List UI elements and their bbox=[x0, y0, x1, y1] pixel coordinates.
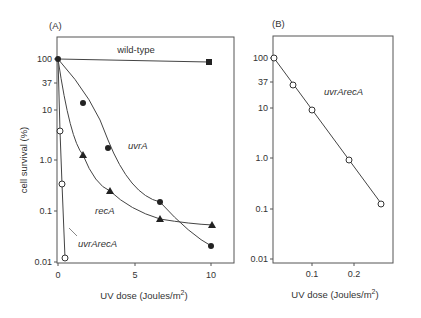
series-wild-type: wild-type bbox=[58, 44, 212, 65]
panel-a-x-axis: 0 5 10 UV dose (Joules/m2) bbox=[55, 263, 216, 301]
panel-b-label: (B) bbox=[272, 18, 285, 29]
series-label: uvrA bbox=[128, 140, 148, 151]
series-label: uvrArecA bbox=[324, 86, 363, 97]
y-tick: 10 bbox=[258, 103, 268, 113]
panel-b-frame bbox=[273, 36, 393, 263]
survival-figure: (A) 100 37 10 1.0 0.1 0.01 cell survival… bbox=[0, 0, 421, 318]
y-tick: 37 bbox=[258, 77, 268, 87]
y-tick: 0.01 bbox=[250, 254, 268, 264]
x-tick: 0 bbox=[55, 270, 60, 280]
y-tick: 1.0 bbox=[39, 155, 52, 165]
panel-b: (B) 100 37 10 1.0 0.1 0.01 0.1 0.2 UV do… bbox=[250, 18, 393, 300]
y-axis-title: cell survival (%) bbox=[18, 127, 29, 194]
x-tick: 5 bbox=[132, 270, 137, 280]
series-uvrArecA-a: uvrArecA bbox=[57, 59, 117, 261]
x-axis-title: UV dose (Joules/m2) bbox=[291, 288, 378, 300]
y-tick: 100 bbox=[37, 54, 52, 64]
x-axis-title: UV dose (Joules/m2) bbox=[100, 289, 187, 301]
panel-b-x-axis: 0.1 0.2 UV dose (Joules/m2) bbox=[291, 263, 378, 300]
panel-a-label: (A) bbox=[49, 20, 62, 31]
panel-b-y-axis: 100 37 10 1.0 0.1 0.01 bbox=[250, 53, 273, 264]
panel-a-y-axis: 100 37 10 1.0 0.1 0.01 cell survival (%) bbox=[18, 54, 57, 267]
y-tick: 100 bbox=[253, 53, 268, 63]
series-label: recA bbox=[95, 205, 115, 216]
y-tick: 0.1 bbox=[39, 206, 52, 216]
y-tick: 1.0 bbox=[255, 153, 268, 163]
x-tick: 10 bbox=[206, 270, 216, 280]
y-tick: 37 bbox=[42, 78, 52, 88]
series-label: uvrArecA bbox=[78, 238, 117, 249]
x-tick: 0.2 bbox=[348, 269, 361, 279]
y-tick: 0.1 bbox=[255, 204, 268, 214]
panel-a: (A) 100 37 10 1.0 0.1 0.01 cell survival… bbox=[18, 20, 234, 301]
series-label: wild-type bbox=[116, 44, 155, 55]
y-tick: 0.01 bbox=[34, 257, 52, 267]
series-uvrArecA-b: uvrArecA bbox=[271, 55, 384, 207]
y-tick: 10 bbox=[42, 105, 52, 115]
x-tick: 0.1 bbox=[306, 269, 319, 279]
